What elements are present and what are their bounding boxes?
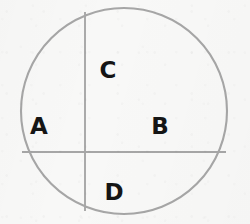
region-label-a: A <box>30 115 48 138</box>
region-label-b: B <box>151 115 169 138</box>
region-label-c: C <box>100 59 117 82</box>
outer-circle-shape <box>21 8 227 214</box>
region-label-d: D <box>104 181 123 204</box>
circle-regions-diagram: A B C D <box>0 0 250 224</box>
